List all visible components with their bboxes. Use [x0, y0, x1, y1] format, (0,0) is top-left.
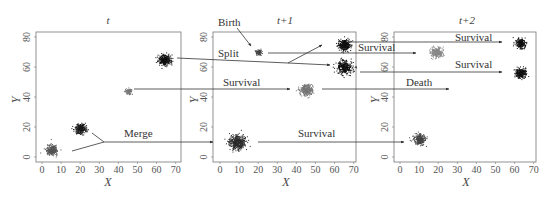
cluster — [124, 87, 133, 95]
survival-label-bottom: Survival — [298, 127, 335, 139]
y-tick-label: 20 — [379, 122, 390, 132]
survival-label-lower: Survival — [455, 58, 492, 70]
split-arrow-upper — [288, 45, 322, 63]
x-axis-label-t: X — [103, 175, 112, 189]
x-tick-label: 60 — [152, 164, 162, 175]
x-axis-label-t1: X — [281, 175, 290, 189]
x-tick-label: 70 — [171, 164, 181, 175]
birth-label: Birth — [218, 16, 241, 28]
x-tick-label: 10 — [56, 164, 66, 175]
y-tick-label: 0 — [21, 155, 32, 160]
x-tick-label: 20 — [433, 164, 443, 175]
x-tick-label: 30 — [94, 164, 104, 175]
x-tick-label: 30 — [272, 164, 282, 175]
birth-arrow — [237, 28, 251, 46]
survival-label-top: Survival — [455, 31, 492, 43]
cluster — [409, 132, 428, 147]
panel-title-t: t — [106, 14, 110, 26]
cluster — [71, 123, 89, 136]
x-tick-label: 70 — [529, 164, 539, 175]
y-tick-label: 60 — [198, 62, 209, 72]
x-axis-label-t2: X — [461, 175, 470, 189]
x-tick-label: 0 — [218, 164, 223, 175]
x-tick-label: 20 — [253, 164, 263, 175]
x-tick-label: 10 — [414, 164, 424, 175]
cluster — [40, 139, 61, 157]
panel-frame-t — [36, 32, 181, 162]
particle-clusters — [40, 36, 529, 157]
split-arrow-lower — [288, 63, 330, 65]
y-tick-label: 0 — [198, 155, 209, 160]
y-tick-label: 0 — [379, 155, 390, 160]
x-tick-label: 0 — [398, 164, 403, 175]
y-tick-label: 20 — [21, 122, 32, 132]
x-tick-label: 70 — [349, 164, 359, 175]
cluster — [514, 66, 530, 80]
x-tick-label: 10 — [234, 164, 244, 175]
x-tick-label: 60 — [510, 164, 520, 175]
y-tick-label: 80 — [21, 32, 32, 42]
panel-title-t1: t+1 — [277, 14, 293, 26]
x-tick-label: 20 — [75, 164, 85, 175]
x-tick-label: 0 — [40, 164, 45, 175]
y-tick-label: 60 — [379, 62, 390, 72]
y-tick-label: 20 — [198, 122, 209, 132]
cluster — [333, 58, 357, 78]
survival-label-mid: Survival — [223, 76, 260, 88]
x-tick-label: 40 — [291, 164, 301, 175]
split-label: Split — [218, 47, 239, 59]
x-tick-label: 30 — [452, 164, 462, 175]
x-tick-label: 50 — [491, 164, 501, 175]
y-tick-label: 80 — [198, 32, 209, 42]
x-tick-label: 40 — [471, 164, 481, 175]
cluster — [224, 130, 250, 153]
panel-title-t2: t+2 — [459, 14, 475, 26]
y-tick-label: 60 — [21, 62, 32, 72]
event-diagram: t t+1 t+2 010203040506070020406080010203… — [0, 0, 550, 203]
x-tick-label: 40 — [113, 164, 123, 175]
merge-connector-upper — [92, 133, 104, 142]
cluster — [513, 37, 528, 50]
axis-ticks: 0102030405060700204060800102030405060700… — [21, 32, 539, 175]
cluster — [255, 49, 263, 56]
x-tick-label: 60 — [330, 164, 340, 175]
merge-connector-lower — [72, 142, 104, 151]
x-tick-label: 50 — [311, 164, 321, 175]
death-label: Death — [406, 76, 433, 88]
x-tick-label: 50 — [133, 164, 143, 175]
cluster — [296, 84, 314, 99]
survival-label-split-top: Survival — [358, 41, 395, 53]
figure-canvas: t t+1 t+2 010203040506070020406080010203… — [0, 0, 550, 203]
cluster — [336, 36, 353, 53]
cluster — [429, 46, 445, 60]
merge-label: Merge — [124, 127, 153, 139]
cluster — [155, 52, 173, 69]
